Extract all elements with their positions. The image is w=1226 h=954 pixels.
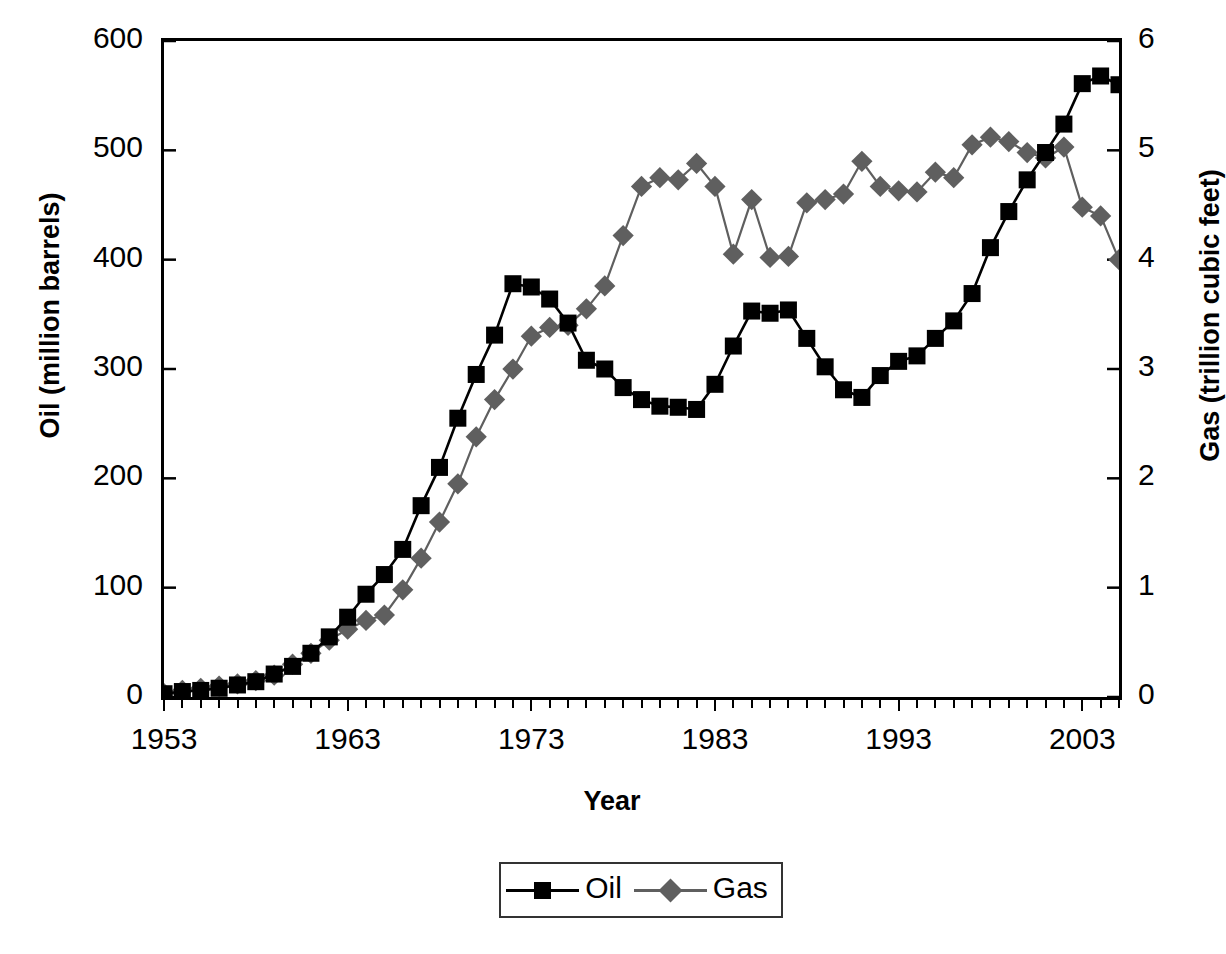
- y-axis-right-tick-label: 4: [1138, 240, 1198, 274]
- series-gas: [164, 127, 1119, 697]
- square-marker-icon: [534, 882, 551, 899]
- y-axis-right-tick-label: 3: [1138, 349, 1198, 383]
- y-axis-right-ticks: [1107, 41, 1119, 697]
- x-axis-tick-label: 1983: [645, 722, 785, 756]
- y-axis-left-tick-label: 500: [33, 130, 143, 164]
- legend-line-oil: [506, 889, 534, 892]
- legend-label-oil: Oil: [579, 871, 630, 909]
- y-axis-left-tick-label: 0: [33, 677, 143, 711]
- legend-item-gas: Gas: [634, 871, 776, 909]
- legend-item-oil: Oil: [506, 871, 630, 909]
- chart-svg: [164, 41, 1119, 697]
- x-axis-tick-label: 1973: [461, 722, 601, 756]
- x-axis-tick-label: 1953: [94, 722, 234, 756]
- y-axis-right-tick-label: 6: [1138, 21, 1198, 55]
- y-axis-left-tick-label: 600: [33, 21, 143, 55]
- y-axis-right-tick-label: 2: [1138, 458, 1198, 492]
- y-axis-left-tick-label: 400: [33, 240, 143, 274]
- x-axis-tick-label: 2003: [1012, 722, 1152, 756]
- diamond-marker-icon: [658, 878, 682, 902]
- chart-legend: Oil Gas: [499, 862, 783, 918]
- x-axis-title: Year: [0, 786, 1224, 817]
- y-axis-right-title: Gas (trillion cubic feet): [1195, 106, 1226, 526]
- y-axis-right-tick-label: 0: [1138, 677, 1198, 711]
- x-axis-tick-label: 1993: [829, 722, 969, 756]
- legend-label-gas: Gas: [707, 871, 776, 909]
- y-axis-right-tick-label: 5: [1138, 130, 1198, 164]
- legend-line-oil-2: [551, 889, 579, 892]
- y-axis-left-ticks: [164, 41, 176, 697]
- plot-area: [161, 38, 1122, 700]
- series-oil: [164, 67, 1119, 697]
- x-axis-tick-label: 1963: [278, 722, 418, 756]
- y-axis-right-tick-label: 1: [1138, 568, 1198, 602]
- y-axis-left-tick-label: 200: [33, 458, 143, 492]
- y-axis-left-tick-label: 300: [33, 349, 143, 383]
- y-axis-left-tick-label: 100: [33, 568, 143, 602]
